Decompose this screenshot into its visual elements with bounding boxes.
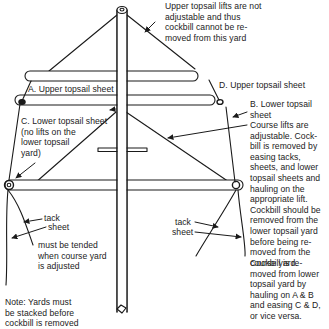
rigging-diagram: Upper topsail lifts are not adjustable a…: [0, 0, 329, 329]
upper-topsail-yard: [25, 71, 198, 81]
label-c-lower-topsail-sheet: C. Lower topsail sheet (no lifts on the …: [21, 116, 107, 158]
label-b-lower-topsail-sheet: B. Lower topsail sheet: [250, 99, 312, 120]
label-left-sheet: sheet: [48, 222, 69, 233]
label-d-upper-topsail-sheet: D. Upper topsail sheet: [219, 80, 305, 91]
mast: [117, 7, 127, 314]
stacking-note: Note: Yards must be stacked before cockb…: [5, 297, 79, 329]
must-be-tended-note: must be tended when course yard is adjus…: [38, 240, 107, 272]
cockbill-lower-topsail-note: Cockbill is re- moved from lower topsail…: [250, 258, 321, 322]
label-right-sheet: sheet: [172, 227, 193, 238]
course-lifts-note: Course lifts are adjustable. Cock- bill …: [250, 120, 321, 268]
upper-topsail-lifts-note: Upper topsail lifts are not adjustable a…: [165, 1, 261, 43]
label-a-upper-topsail-sheet: A. Upper topsail sheet: [28, 84, 114, 95]
label-right-tack: tack: [175, 217, 191, 228]
